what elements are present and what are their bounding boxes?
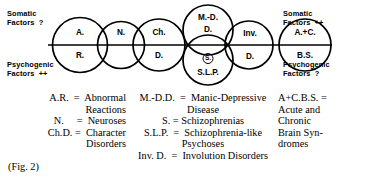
- schizophrenias-badge-label: S.: [204, 54, 213, 63]
- somatic-factors-right-label: Somatic Factors ++: [283, 9, 324, 28]
- label-abnormal-reactions-lower: R.: [76, 51, 84, 60]
- figure-diagram: Somatic Factors ? Psychogenic Factors ++…: [0, 0, 375, 90]
- legend-entry: S. = Schizophrenias: [128, 115, 278, 127]
- label-manic-depressive-disease-lower: D.: [204, 25, 212, 34]
- legend-entry: S.L.P. = Schizophrenia-like Psychoses: [128, 127, 278, 150]
- label-manic-depressive-disease-upper: M.-D.: [198, 13, 218, 22]
- legend-entry: A.R. = Abnormal Reactions: [14, 92, 128, 115]
- legend-column-2: M.-D.D. = Manic-Depressive Disease S. = …: [128, 92, 278, 162]
- schizophrenias-badge: S.: [203, 53, 214, 64]
- legend-entry: M.-D.D. = Manic-Depressive Disease: [128, 92, 278, 115]
- label-acute-chronic-brain-syndromes-upper: A.+C.: [294, 28, 315, 37]
- label-neuroses-upper: N.: [117, 28, 125, 37]
- label-involution-disorders-lower: D.: [246, 52, 254, 61]
- legend: A.R. = Abnormal Reactions N. = Neuroses …: [0, 92, 375, 162]
- label-involution-disorders-upper: Inv.: [243, 29, 257, 38]
- label-abnormal-reactions-upper: A.: [76, 28, 84, 37]
- legend-column-3: A+C.B.S. = Acute and Chronic Brain Syn- …: [278, 92, 374, 150]
- psychogenic-factors-left-label: Psychogenic Factors ++: [7, 60, 54, 79]
- legend-entry: N. = Neuroses: [14, 115, 128, 127]
- label-acute-chronic-brain-syndromes-lower: B.S.: [297, 51, 313, 60]
- label-character-disorders-lower: D.: [155, 51, 163, 60]
- legend-entry: Ch.D. = Character Disorders: [14, 127, 128, 150]
- legend-column-1: A.R. = Abnormal Reactions N. = Neuroses …: [14, 92, 128, 150]
- figure-caption: (Fig. 2): [8, 161, 39, 173]
- label-schizophrenia-like-psychoses: S.L.P.: [197, 68, 219, 77]
- somatic-factors-left-label: Somatic Factors ?: [7, 9, 43, 28]
- legend-entry: Inv. D. = Involution Disorders: [128, 150, 278, 162]
- label-character-disorders-upper: Ch.: [152, 28, 165, 37]
- legend-entry: A+C.B.S. = Acute and Chronic Brain Syn- …: [278, 92, 374, 150]
- psychogenic-factors-right-label: Psychogenic Factors ?: [283, 60, 330, 79]
